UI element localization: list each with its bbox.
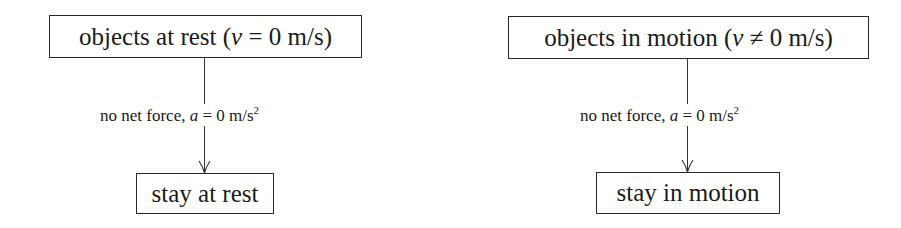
edge-label: no net force, a = 0 m/s2 bbox=[580, 104, 739, 126]
text-prefix: objects at rest ( bbox=[79, 23, 231, 50]
edge-relation: = 0 m/s bbox=[198, 106, 253, 125]
edge-label: no net force, a = 0 m/s2 bbox=[100, 104, 259, 126]
edge-relation: = 0 m/s bbox=[678, 106, 733, 125]
velocity-symbol: v bbox=[231, 23, 242, 50]
edge-text: no net force, bbox=[580, 106, 670, 125]
connector-line bbox=[687, 59, 688, 104]
text-relation: ≠ 0 m/s) bbox=[743, 24, 832, 51]
edge-text: no net force, bbox=[100, 106, 190, 125]
arrowhead-icon bbox=[681, 159, 694, 173]
box-text: stay at rest bbox=[152, 180, 259, 208]
box-text: objects in motion (v ≠ 0 m/s) bbox=[544, 24, 833, 52]
objects-at-rest-box: objects at rest (v = 0 m/s) bbox=[49, 15, 362, 58]
connector-line bbox=[204, 58, 205, 104]
box-text: stay in motion bbox=[616, 179, 759, 207]
exponent: 2 bbox=[734, 104, 740, 116]
objects-in-motion-box: objects in motion (v ≠ 0 m/s) bbox=[508, 16, 869, 59]
acceleration-symbol: a bbox=[670, 106, 679, 125]
velocity-symbol: v bbox=[732, 24, 743, 51]
box-text: objects at rest (v = 0 m/s) bbox=[79, 23, 332, 51]
exponent: 2 bbox=[254, 104, 260, 116]
acceleration-symbol: a bbox=[190, 106, 199, 125]
text-relation: = 0 m/s) bbox=[242, 23, 332, 50]
text-prefix: objects in motion ( bbox=[544, 24, 732, 51]
arrowhead-icon bbox=[198, 160, 211, 174]
stay-in-motion-box: stay in motion bbox=[596, 172, 780, 214]
stay-at-rest-box: stay at rest bbox=[136, 173, 274, 214]
